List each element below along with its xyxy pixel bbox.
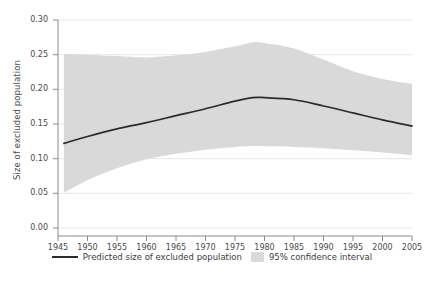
x-tick-label-2000: 2000 xyxy=(367,243,399,252)
figure-caption xyxy=(0,280,424,288)
chart-legend: Predicted size of excluded population 95… xyxy=(0,252,424,262)
y-tick-label-0.20: 0.20 xyxy=(18,84,48,93)
x-tick-label-1985: 1985 xyxy=(278,243,310,252)
y-tick-label-0.15: 0.15 xyxy=(18,119,48,128)
chart-figure: Size of excluded population 0.000.050.10… xyxy=(0,0,424,288)
x-tick-label-2005: 2005 xyxy=(396,243,424,252)
y-tick-label-0.05: 0.05 xyxy=(18,188,48,197)
x-tick-label-1970: 1970 xyxy=(190,243,222,252)
y-axis-ticks xyxy=(53,20,58,228)
x-tick-label-1995: 1995 xyxy=(337,243,369,252)
legend-band-swatch-icon xyxy=(251,252,264,262)
x-tick-label-1945: 1945 xyxy=(42,243,74,252)
y-tick-label-0.30: 0.30 xyxy=(18,15,48,24)
x-axis-ticks xyxy=(58,236,412,241)
confidence-interval-band xyxy=(64,42,412,193)
legend-entry-predicted-line: Predicted size of excluded population xyxy=(52,252,242,262)
x-tick-label-1990: 1990 xyxy=(308,243,340,252)
x-tick-label-1975: 1975 xyxy=(219,243,251,252)
legend-label-predicted-line: Predicted size of excluded population xyxy=(83,252,242,262)
legend-label-confidence-interval: 95% confidence interval xyxy=(269,252,372,262)
y-tick-label-0.25: 0.25 xyxy=(18,50,48,59)
legend-line-swatch-icon xyxy=(52,256,78,258)
x-tick-label-1965: 1965 xyxy=(160,243,192,252)
y-tick-label-0.00: 0.00 xyxy=(18,223,48,232)
x-tick-label-1955: 1955 xyxy=(101,243,133,252)
x-tick-label-1960: 1960 xyxy=(131,243,163,252)
x-tick-label-1980: 1980 xyxy=(249,243,281,252)
x-tick-label-1950: 1950 xyxy=(72,243,104,252)
y-tick-label-0.10: 0.10 xyxy=(18,154,48,163)
legend-entry-confidence-interval: 95% confidence interval xyxy=(251,252,372,262)
